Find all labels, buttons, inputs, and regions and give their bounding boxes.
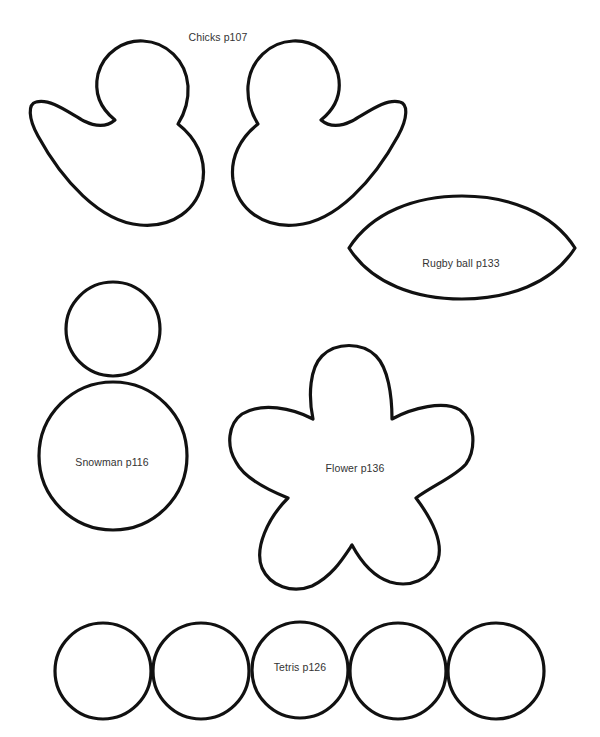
tetris-circle-4 — [350, 623, 446, 719]
tetris-circle-1 — [55, 623, 151, 719]
flower-label: Flower p136 — [326, 462, 385, 474]
tetris-label: Tetris p126 — [274, 661, 326, 673]
chicks-label: Chicks p107 — [189, 31, 248, 43]
chick-right-shape — [232, 41, 405, 225]
rugby-label: Rugby ball p133 — [422, 257, 499, 269]
snowman-label: Snowman p116 — [75, 456, 148, 468]
tetris-circle-2 — [153, 623, 249, 719]
tetris-circle-5 — [448, 623, 544, 719]
rugby-ball-shape — [349, 196, 575, 299]
chick-left-shape — [30, 41, 203, 225]
snowman-head-shape — [66, 282, 160, 376]
template-sheet — [0, 0, 600, 737]
